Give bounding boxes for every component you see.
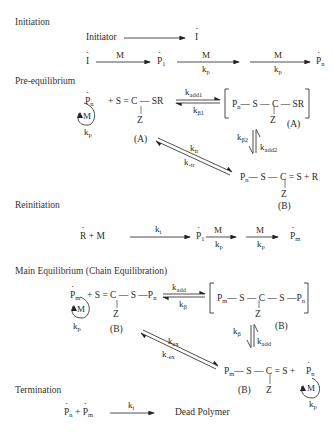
pn-radical: Pn [316, 57, 325, 68]
section-reinitiation: Reinitiation [15, 201, 60, 211]
monomer-label: M [274, 51, 282, 60]
k-minus-tr-label: k-tr [184, 158, 195, 169]
monomer-label: M [307, 384, 315, 393]
dead-polymer-label: Dead Polymer [175, 408, 230, 418]
z-group: Z [266, 386, 272, 396]
product-b-with-pn: Pm— S — C = S + [224, 367, 295, 378]
label-b: (B) [238, 386, 251, 396]
label-b: (B) [278, 202, 291, 212]
termination-reactants: Pn + Pm [64, 408, 93, 419]
kp-label: kp [215, 240, 223, 251]
z-group: Z [255, 310, 261, 320]
section-main-equilibrium: Main Equilibrium (Chain Equilibration) [15, 267, 167, 277]
kadd1-label: kadd1 [185, 88, 202, 99]
pn-radical: Pn [306, 367, 315, 378]
kp-label: kp [257, 240, 265, 251]
label-a: (A) [134, 135, 147, 145]
initiator-label: Initiator [86, 33, 117, 43]
z-group: Z [113, 310, 119, 320]
z-group: Z [270, 116, 276, 126]
monomer-label: M [116, 51, 124, 60]
raft-agent: + S = C — SR [108, 97, 163, 107]
label-a-radical: (A) [287, 120, 300, 130]
kp-label: kp [84, 128, 92, 139]
k-minus-ex-label: k-ex [162, 350, 175, 361]
kex-label: kex [168, 337, 179, 348]
pm-radical: Pm [290, 232, 300, 243]
section-initiation: Initiation [15, 18, 50, 28]
kbeta1-label: kβ1 [193, 106, 204, 117]
z-group: Z [137, 116, 143, 126]
p1-radical: P1 [157, 57, 166, 68]
kp-label: kp [274, 65, 282, 76]
product-b-with-r: Pn— S — C = S + R [240, 173, 318, 184]
kt-label: kt [128, 401, 134, 412]
label-b-radical: (B) [275, 322, 288, 332]
kbeta-label: kβ [233, 327, 241, 338]
adduct-radical-b: Pm— S — C — S —Pn [217, 294, 305, 305]
monomer-label: M [256, 226, 264, 235]
p1-radical: P1 [196, 232, 205, 243]
monomer-label: M [202, 51, 210, 60]
initiator-radical: I [195, 33, 198, 43]
pm-radical: Pm [70, 291, 80, 302]
i-radical: I [86, 57, 89, 67]
kadd2-label: kadd2 [260, 143, 277, 154]
macro-raft-agent: + S = C — S —Pn [87, 291, 156, 302]
kadd-label: kadd [172, 283, 186, 294]
kadd-label: kadd [257, 337, 271, 348]
monomer-label: M [83, 112, 91, 121]
r-radical: R + M [80, 232, 105, 242]
monomer-label: M [214, 226, 222, 235]
kp-label: kp [309, 400, 317, 411]
kp-label: kp [73, 322, 81, 333]
section-pre-equilibrium: Pre-equilibrium [15, 77, 75, 87]
z-group: Z [281, 190, 287, 200]
monomer-label: M [77, 305, 85, 314]
ki-label: ki [155, 225, 161, 236]
adduct-radical-a: Pn— S — C — SR [232, 100, 304, 111]
ktr-label: ktr [190, 144, 198, 155]
kp-label: kp [202, 65, 210, 76]
kbeta2-label: kβ2 [237, 133, 248, 144]
label-b: (B) [110, 325, 123, 335]
pn-radical: Pn [85, 97, 94, 108]
kbeta-label: kβ [179, 300, 187, 311]
section-termination: Termination [15, 386, 61, 396]
